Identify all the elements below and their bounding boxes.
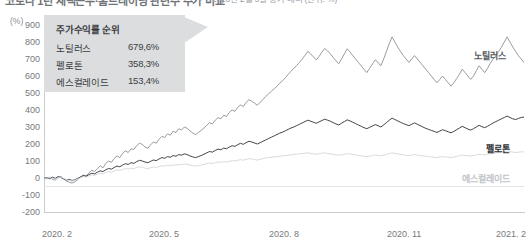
y-axis-tick-labels: 9008007006005004003002001000-100-200 (0, 0, 40, 248)
y-axis-tick: -200 (6, 208, 40, 217)
callout-row-nautilus: 노틸러스 679,6% (56, 41, 178, 58)
callout-row-peloton: 펠로톤 358,3% (56, 58, 178, 75)
series-label-escalade: 에스컬레이드 (462, 172, 510, 185)
callout-tail-icon (184, 17, 208, 43)
callout-title: 주가수익률 순위 (56, 22, 120, 36)
x-axis-tick: 2020. 5 (149, 229, 179, 239)
callout-row-value: 153,4% (128, 75, 159, 86)
y-axis-tick: 400 (6, 106, 40, 115)
callout-row-escalade: 에스컬레이드 153,4% (56, 75, 178, 92)
y-axis-tick: 500 (6, 89, 40, 98)
y-axis-tick: 900 (6, 21, 40, 30)
series-line (44, 116, 524, 180)
y-axis-tick: 300 (6, 123, 40, 132)
y-axis-tick: 700 (6, 55, 40, 64)
callout-row-name: 펠로톤 (56, 58, 82, 72)
x-axis-tick: 2020. 8 (269, 229, 299, 239)
y-axis-tick: -100 (6, 191, 40, 200)
y-axis-tick: 100 (6, 157, 40, 166)
ranking-callout: 주가수익률 순위 노틸러스 679,6% 펠로톤 358,3% 에스컬레이드 1… (44, 15, 185, 92)
callout-row-name: 노틸러스 (56, 41, 91, 55)
series-label-nautilus: 노틸러스 (474, 49, 506, 62)
headline-subtitle: ※2020년 2월 3일 종가 대비 (단위: %) (205, 0, 337, 4)
y-axis-tick: 600 (6, 72, 40, 81)
x-axis-tick: 2020. 2 (42, 229, 72, 239)
headline-strip: 코로나 1년 재택근무·홈트레이닝 관련주 주가 비교 ※2020년 2월 3일… (0, 0, 528, 7)
x-axis-tick: 2020. 11 (387, 229, 421, 239)
callout-row-value: 358,3% (128, 58, 159, 69)
y-axis-tick: 200 (6, 140, 40, 149)
x-axis-tick: 2021. 2 (496, 229, 526, 239)
y-axis-tick: 0 (6, 174, 40, 183)
callout-row-value: 679,6% (128, 41, 159, 52)
y-axis-tick: 800 (6, 38, 40, 47)
chart-root: 코로나 1년 재택근무·홈트레이닝 관련주 주가 비교 ※2020년 2월 3일… (0, 0, 528, 248)
callout-row-name: 에스컬레이드 (56, 75, 109, 89)
series-label-peloton: 펠로톤 (486, 142, 510, 155)
